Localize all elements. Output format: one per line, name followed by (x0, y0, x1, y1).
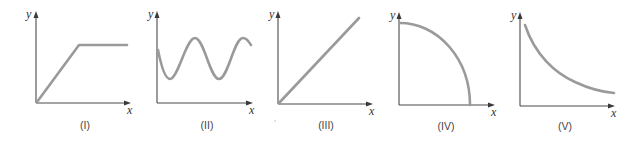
caption-II: (II) (201, 119, 214, 131)
caption-V: (V) (558, 120, 572, 132)
stray-dot (274, 120, 276, 122)
x-axis-label: x (248, 103, 255, 117)
y-axis-arrow-icon (276, 11, 281, 18)
x-axis-label: x (368, 104, 375, 118)
y-axis-label: y (389, 8, 396, 22)
curve-IV (400, 23, 470, 105)
curve-I (37, 45, 127, 102)
caption-I: (I) (80, 119, 90, 131)
panel-III: y x (III) (268, 7, 375, 131)
curve-V (525, 25, 614, 93)
y-axis-label: y (268, 7, 275, 21)
x-axis-label: x (490, 105, 497, 119)
panel-V: y x (V) (510, 8, 617, 132)
panel-II: y x (II) (147, 7, 255, 131)
y-axis-label: y (25, 7, 32, 21)
curve-II (158, 38, 251, 79)
x-axis-label: x (126, 103, 133, 117)
y-axis-arrow-icon (518, 12, 523, 19)
caption-III: (III) (318, 119, 334, 131)
y-axis-label: y (147, 7, 154, 21)
y-axis-arrow-icon (155, 11, 160, 18)
panel-IV: y x (IV) (389, 8, 497, 132)
y-axis-label: y (510, 8, 517, 22)
y-axis-arrow-icon (34, 11, 39, 18)
x-axis-label: x (610, 106, 617, 120)
caption-IV: (IV) (438, 120, 455, 132)
y-axis-arrow-icon (397, 12, 402, 19)
panel-I: y x (I) (25, 7, 133, 131)
curve-III (279, 18, 359, 103)
figure-canvas: y x (I) y x (II) y x (III) y x (IV) (0, 0, 641, 142)
